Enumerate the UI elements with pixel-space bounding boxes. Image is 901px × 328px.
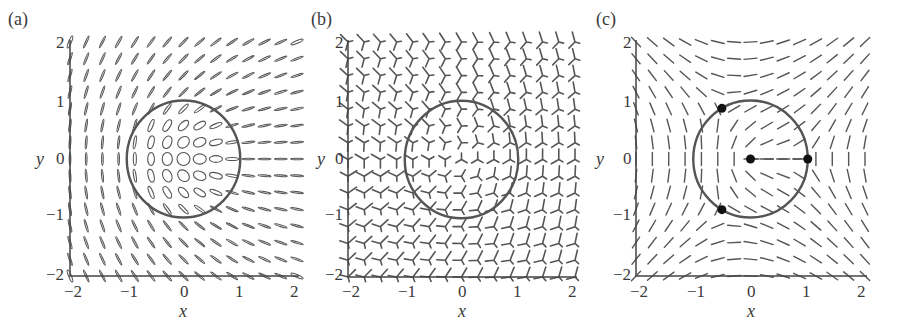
trefoil-glyph (568, 149, 580, 164)
director-line (794, 205, 804, 213)
y-tick-b-1: 1 (335, 93, 344, 110)
plot-area-c (600, 0, 901, 328)
field-glyphs (339, 32, 580, 282)
director-line (717, 136, 718, 149)
trefoil-glyph (569, 32, 580, 48)
director-line (861, 54, 870, 64)
director-line (863, 186, 867, 198)
trefoil-glyph (469, 268, 482, 281)
director-line (777, 89, 788, 95)
ellipse-glyph (115, 220, 121, 233)
ellipse-glyph (209, 188, 222, 196)
ellipse-glyph (84, 203, 89, 216)
trefoil-glyph (440, 67, 451, 83)
x-tick-a-0: 0 (180, 283, 189, 300)
x-tick-c-m1: −1 (687, 283, 705, 300)
trefoil-glyph (486, 184, 498, 197)
trefoil-glyph (502, 267, 514, 281)
ellipse-glyph (163, 87, 172, 98)
ellipse-glyph (163, 70, 172, 81)
ellipse-glyph (210, 255, 221, 264)
trefoil-glyph (372, 137, 385, 151)
trefoil-glyph (568, 82, 579, 98)
ellipse-glyph (210, 222, 222, 230)
director-line (777, 173, 789, 178)
ellipse-glyph (83, 36, 90, 48)
ellipse-glyph (226, 106, 239, 112)
ellipse-glyph (178, 237, 188, 247)
trefoil-glyph (356, 220, 372, 232)
trefoil-glyph (469, 217, 482, 231)
ellipse-glyph (99, 69, 105, 82)
director-line (746, 171, 755, 180)
ellipse-glyph (274, 72, 287, 78)
director-line (794, 239, 805, 246)
trefoil-glyph (485, 268, 498, 281)
ellipse-glyph (226, 157, 239, 160)
trefoil-glyph (453, 268, 467, 281)
trefoil-glyph (553, 49, 564, 65)
trefoil-glyph (453, 234, 467, 247)
trefoil-glyph (455, 170, 466, 182)
field-glyphs (66, 35, 303, 282)
director-line (811, 239, 821, 247)
ellipse-glyph (131, 237, 139, 249)
ellipse-glyph (178, 54, 188, 64)
ellipse-glyph (258, 89, 271, 95)
trefoil-glyph (404, 269, 419, 282)
panel-c: (c) y x 2 1 0 −1 −2 −2 −1 0 1 2 (600, 0, 901, 328)
director-line (664, 54, 674, 63)
ellipse-glyph (242, 55, 254, 63)
ellipse-glyph (116, 186, 121, 199)
director-line (684, 169, 685, 182)
ellipse-glyph (258, 141, 271, 144)
trefoil-glyph (520, 116, 531, 132)
ellipse-glyph (99, 253, 106, 265)
director-line (864, 169, 866, 182)
y-tick-a-1: 1 (56, 93, 65, 110)
ellipse-glyph (99, 52, 106, 64)
ellipse-glyph (274, 223, 287, 228)
trefoil-glyph (535, 200, 547, 213)
trefoil-glyph (536, 99, 547, 115)
trefoil-glyph (421, 219, 436, 232)
trefoil-glyph (551, 200, 563, 213)
ellipse-glyph (178, 103, 189, 114)
trefoil-glyph (372, 203, 388, 215)
trefoil-glyph (457, 101, 467, 117)
director-line (684, 136, 685, 149)
y-tick-c-2: 2 (623, 34, 632, 51)
y-tick-a-2: 2 (56, 34, 65, 51)
ellipse-glyph (193, 187, 207, 199)
defect-dot (803, 155, 812, 164)
director-line (712, 258, 725, 261)
director-line (777, 40, 789, 44)
ellipse-glyph (161, 119, 173, 133)
director-line (845, 103, 852, 114)
trefoil-glyph (485, 234, 498, 248)
ellipse-glyph (147, 169, 156, 183)
director-line (652, 136, 654, 149)
director-line (698, 103, 704, 114)
director-line (777, 140, 789, 145)
ellipse-glyph (274, 158, 287, 160)
director-line (761, 241, 773, 245)
ellipse-glyph (274, 256, 287, 262)
director-line (744, 58, 757, 59)
trefoil-glyph (371, 154, 384, 168)
director-line (728, 75, 741, 76)
director-line (682, 203, 688, 215)
director-line (810, 55, 821, 62)
ellipse-glyph (147, 53, 156, 64)
director-line (729, 206, 740, 213)
trefoil-glyph (388, 236, 403, 248)
director-line (812, 187, 820, 197)
trefoil-glyph (488, 117, 499, 132)
trefoil-glyph (404, 155, 417, 168)
trefoil-glyph (505, 49, 515, 65)
ellipse-glyph (258, 223, 271, 229)
ellipse-glyph (161, 135, 174, 150)
director-line (681, 87, 689, 97)
trefoil-glyph (472, 152, 483, 163)
ellipse-glyph (115, 86, 121, 99)
